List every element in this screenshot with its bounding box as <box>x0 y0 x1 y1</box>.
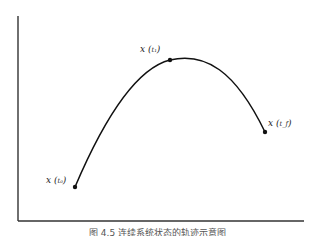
trajectory-curve <box>75 58 265 187</box>
point-x-t1 <box>168 58 172 62</box>
label-x-tf: x(t_f) <box>268 118 292 128</box>
figure-caption: 图 4.5 连续系统状态的轨迹示意图 <box>0 227 315 236</box>
point-x-tf <box>263 130 267 134</box>
point-x-t0 <box>73 185 77 189</box>
label-x-t0: x(t₀) <box>46 175 67 185</box>
label-x-t1: x(t₁) <box>140 44 161 54</box>
trajectory-figure: x(t₀) x(t₁) x(t_f) <box>0 0 315 236</box>
